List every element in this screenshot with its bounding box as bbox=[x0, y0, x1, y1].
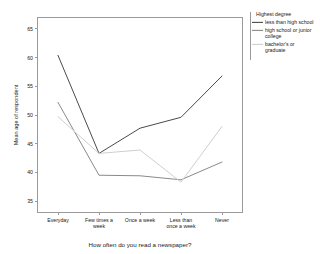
legend-title: Highest degree bbox=[256, 11, 291, 17]
y-tick-label: 40 bbox=[27, 169, 33, 175]
y-tick-label: 35 bbox=[27, 198, 33, 204]
y-tick-label: 65 bbox=[27, 26, 33, 32]
x-tick-label: Few times aweek bbox=[85, 217, 113, 229]
y-tick-label: 60 bbox=[27, 55, 33, 61]
y-tick-label: 55 bbox=[27, 83, 33, 89]
line-chart: 35404550556065 EverydayFew times aweekOn… bbox=[0, 0, 320, 254]
y-tick-label: 50 bbox=[27, 112, 33, 118]
x-axis-title: How often do you read a newspaper? bbox=[89, 241, 192, 248]
legend-label-1: high school or juniorcollege bbox=[265, 27, 312, 39]
legend-label-2: bachelor's orgraduate bbox=[265, 41, 295, 53]
data-series-group bbox=[58, 55, 222, 182]
x-tick-label: Never bbox=[215, 217, 229, 223]
x-axis-category-labels: EverydayFew times aweekOnce a weekLess t… bbox=[47, 217, 229, 229]
y-axis-title: Mean age of respondent bbox=[13, 84, 19, 145]
plot-border bbox=[38, 18, 243, 213]
chart-legend: Highest degree less than high schoolhigh… bbox=[251, 11, 314, 60]
y-tick-label: 45 bbox=[27, 141, 33, 147]
chart-canvas: 35404550556065 EverydayFew times aweekOn… bbox=[0, 0, 320, 254]
legend-items: less than high schoolhigh school or juni… bbox=[252, 19, 313, 53]
y-axis-tick-labels: 35404550556065 bbox=[27, 26, 33, 204]
x-tick-label: Everyday bbox=[47, 217, 69, 223]
x-tick-label: Once a week bbox=[125, 217, 156, 223]
legend-label-0: less than high school bbox=[265, 19, 313, 25]
x-tick-label: Less thanonce a week bbox=[166, 217, 196, 229]
plot-frame bbox=[38, 18, 243, 213]
